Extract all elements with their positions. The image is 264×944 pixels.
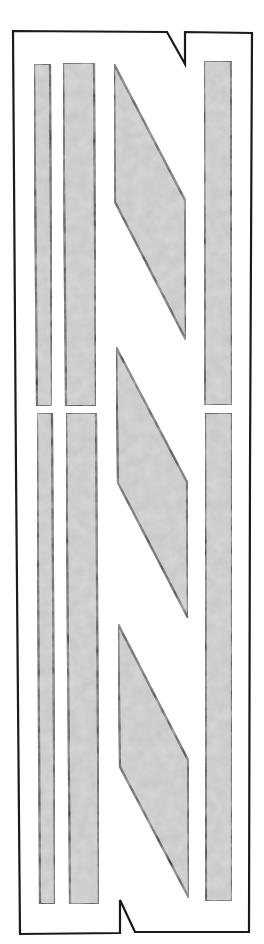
narrow-strip-lower [37, 413, 55, 904]
right-strips [204, 61, 232, 901]
left-wide-strips [63, 63, 99, 904]
parallelogram-column [114, 64, 189, 898]
wide-strip-lower [66, 413, 99, 904]
right-strip-lower [205, 413, 232, 901]
narrow-strip-upper [34, 64, 52, 406]
diagram-canvas [0, 0, 264, 944]
wide-strip-upper [63, 63, 96, 406]
right-strip-upper [204, 61, 232, 405]
